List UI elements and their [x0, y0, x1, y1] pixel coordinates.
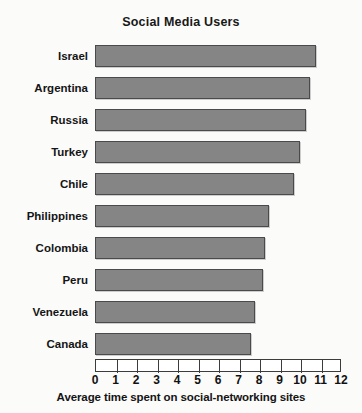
bar: [95, 45, 316, 67]
bar: [95, 333, 251, 355]
tick-label: 9: [276, 373, 283, 387]
bar: [95, 205, 269, 227]
tick-mark: [240, 360, 241, 373]
tick-label: 7: [235, 373, 242, 387]
bar-row: Philippines: [95, 205, 341, 227]
category-label: Philippines: [27, 210, 88, 222]
tick-label: 12: [334, 373, 347, 387]
bar-chart-figure: Social Media Users IsraelArgentinaRussia…: [0, 0, 362, 413]
bar: [95, 141, 300, 163]
tick-label: 6: [215, 373, 222, 387]
category-label: Peru: [62, 274, 88, 286]
bar-row: Argentina: [95, 77, 341, 99]
tick-label: 2: [133, 373, 140, 387]
bar: [95, 301, 255, 323]
bar-row: Israel: [95, 45, 341, 67]
bar: [95, 173, 294, 195]
tick-mark: [219, 360, 220, 373]
tick-label: 1: [112, 373, 119, 387]
bar: [95, 109, 306, 131]
bar-row: Peru: [95, 269, 341, 291]
category-label: Venezuela: [32, 306, 88, 318]
tick-mark: [322, 360, 323, 373]
tick-label: 10: [293, 373, 306, 387]
tick-mark: [137, 360, 138, 373]
x-axis-label: Average time spent on social-networking …: [0, 391, 362, 403]
tick-mark: [158, 360, 159, 373]
x-axis-tick-band: [95, 359, 341, 372]
tick-mark: [301, 360, 302, 373]
tick-label: 8: [256, 373, 263, 387]
chart-title: Social Media Users: [0, 15, 362, 29]
bar-row: Turkey: [95, 141, 341, 163]
tick-mark: [178, 360, 179, 373]
bar-row: Russia: [95, 109, 341, 131]
plot-area: IsraelArgentinaRussiaTurkeyChilePhilippi…: [95, 45, 341, 359]
category-label: Turkey: [51, 146, 88, 158]
tick-mark: [117, 360, 118, 373]
category-label: Israel: [58, 50, 88, 62]
tick-label: 3: [153, 373, 160, 387]
category-label: Colombia: [36, 242, 88, 254]
category-label: Chile: [60, 178, 88, 190]
x-axis-tick-labels: 0123456789101112: [0, 373, 362, 389]
bar: [95, 237, 265, 259]
tick-label: 5: [194, 373, 201, 387]
tick-mark: [260, 360, 261, 373]
tick-label: 4: [174, 373, 181, 387]
bar-row: Venezuela: [95, 301, 341, 323]
tick-mark: [199, 360, 200, 373]
tick-label: 11: [314, 373, 327, 387]
bar-row: Colombia: [95, 237, 341, 259]
bar-row: Chile: [95, 173, 341, 195]
tick-label: 0: [92, 373, 99, 387]
tick-mark: [281, 360, 282, 373]
category-label: Russia: [50, 114, 88, 126]
bar-row: Canada: [95, 333, 341, 355]
bar: [95, 77, 310, 99]
category-label: Argentina: [34, 82, 88, 94]
bar: [95, 269, 263, 291]
category-label: Canada: [46, 338, 88, 350]
